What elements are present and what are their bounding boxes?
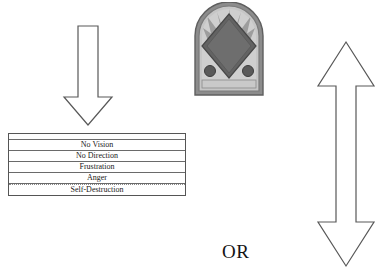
table-row: No Vision — [9, 140, 185, 151]
emblem-base-band — [202, 80, 256, 88]
table-row: Anger — [9, 173, 185, 184]
stages-table: No Vision No Direction Frustration Anger… — [8, 133, 186, 196]
figure-canvas: OR No Vision No Direction Frustration An… — [0, 0, 380, 274]
down-arrow-icon — [62, 24, 114, 127]
arched-plaque-icon — [193, 2, 265, 97]
up-down-arrow-icon — [315, 40, 377, 268]
table-row: Frustration — [9, 162, 185, 173]
emblem-graphic — [193, 2, 265, 97]
emblem-dot-left — [205, 66, 216, 77]
down-arrow — [62, 24, 114, 127]
emblem-dot-right — [243, 66, 254, 77]
table-row: No Direction — [9, 151, 185, 162]
or-label: OR — [222, 241, 249, 263]
double-headed-arrow — [315, 40, 377, 268]
table-row: Self-Destruction — [9, 184, 185, 195]
